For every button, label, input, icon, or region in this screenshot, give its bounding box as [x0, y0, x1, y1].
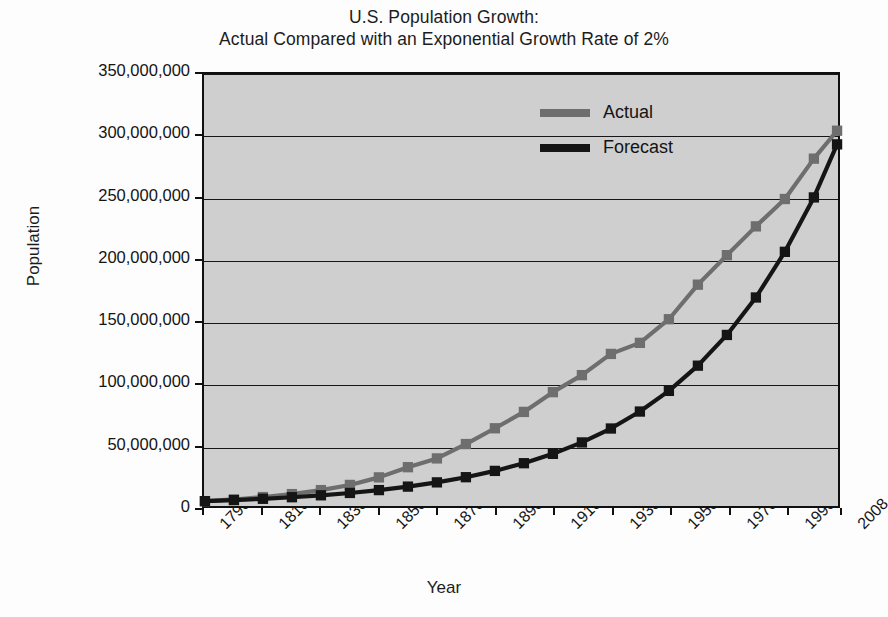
- data-point-marker: [345, 488, 355, 498]
- data-point-marker: [751, 292, 761, 302]
- data-point-marker: [345, 480, 355, 490]
- data-point-marker: [577, 370, 587, 380]
- legend-item-forecast[interactable]: Forecast: [540, 137, 673, 158]
- data-series-layer: [204, 74, 838, 506]
- data-point-marker: [287, 489, 297, 499]
- gridline: [204, 199, 838, 200]
- data-point-marker: [490, 466, 500, 476]
- y-axis-label: Population: [24, 166, 44, 326]
- data-point-marker: [548, 449, 558, 459]
- y-axis-tick-label: 50,000,000: [107, 435, 190, 454]
- x-axis-tick-mark: [612, 508, 614, 515]
- data-point-marker: [722, 330, 732, 340]
- data-point-marker: [229, 495, 239, 505]
- gridline: [204, 261, 838, 262]
- gridline: [204, 136, 838, 137]
- plot-area: ActualForecast: [202, 72, 840, 508]
- x-axis-tick-mark: [378, 508, 380, 515]
- data-point-marker: [664, 386, 674, 396]
- data-point-marker: [316, 485, 326, 495]
- data-point-marker: [403, 481, 413, 491]
- data-point-marker: [461, 472, 471, 482]
- data-point-marker: [519, 407, 529, 417]
- data-point-marker: [832, 126, 842, 136]
- data-point-marker: [490, 423, 500, 433]
- data-point-marker: [832, 139, 842, 149]
- y-axis-tick-mark: [195, 197, 202, 199]
- data-point-marker: [258, 492, 268, 502]
- data-point-marker: [403, 462, 413, 472]
- y-axis-tick-mark: [195, 134, 202, 136]
- x-axis-tick-mark: [495, 508, 497, 515]
- data-point-marker: [229, 494, 239, 504]
- x-axis-tick-mark: [840, 508, 842, 515]
- series-line-actual: [205, 131, 837, 501]
- legend-swatch-actual: [540, 109, 590, 117]
- y-axis-tick-mark: [195, 72, 202, 74]
- data-point-marker: [780, 247, 790, 257]
- chart-title-line-1: U.S. Population Growth:: [0, 6, 888, 28]
- data-point-marker: [635, 338, 645, 348]
- x-axis-tick-mark: [261, 508, 263, 515]
- data-point-marker: [287, 492, 297, 502]
- y-axis-tick-mark: [195, 383, 202, 385]
- y-axis-tick-label: 100,000,000: [98, 372, 190, 391]
- y-axis-tick-label: 200,000,000: [98, 248, 190, 267]
- data-point-marker: [693, 280, 703, 290]
- y-axis-tick-label: 300,000,000: [98, 123, 190, 142]
- legend-label: Actual: [603, 102, 653, 123]
- gridline: [204, 448, 838, 449]
- data-point-marker: [258, 494, 268, 504]
- chart-legend: ActualForecast: [540, 102, 673, 158]
- chart-title-line-2: Actual Compared with an Exponential Grow…: [0, 28, 888, 50]
- y-axis-tick-mark: [195, 259, 202, 261]
- x-axis-tick-mark: [553, 508, 555, 515]
- data-point-marker: [693, 361, 703, 371]
- x-axis-tick-mark: [436, 508, 438, 515]
- chart-figure: U.S. Population Growth: Actual Compared …: [0, 0, 888, 617]
- legend-item-actual[interactable]: Actual: [540, 102, 673, 123]
- x-axis-tick-mark: [202, 508, 204, 515]
- y-axis-tick-label: 350,000,000: [98, 61, 190, 80]
- data-point-marker: [374, 472, 384, 482]
- data-point-marker: [606, 349, 616, 359]
- gridline: [204, 323, 838, 324]
- data-point-marker: [432, 453, 442, 463]
- data-point-marker: [432, 477, 442, 487]
- legend-swatch-forecast: [540, 144, 590, 152]
- gridline: [204, 74, 838, 75]
- x-axis-tick-label: 2008: [854, 495, 888, 533]
- data-point-marker: [606, 423, 616, 433]
- data-point-marker: [635, 406, 645, 416]
- y-axis-tick-label: 250,000,000: [98, 186, 190, 205]
- gridline: [204, 385, 838, 386]
- data-point-marker: [751, 221, 761, 231]
- legend-label: Forecast: [603, 137, 673, 158]
- data-point-marker: [316, 490, 326, 500]
- data-point-marker: [548, 387, 558, 397]
- x-axis-tick-mark: [787, 508, 789, 515]
- series-markers-actual: [200, 126, 842, 507]
- y-axis-tick-mark: [195, 321, 202, 323]
- y-axis-tick-label: 150,000,000: [98, 310, 190, 329]
- data-point-marker: [722, 250, 732, 260]
- y-axis-tick-label: 0: [181, 497, 190, 516]
- data-point-marker: [374, 485, 384, 495]
- x-axis-tick-mark: [319, 508, 321, 515]
- data-point-marker: [519, 458, 529, 468]
- data-point-marker: [809, 192, 819, 202]
- x-axis-tick-mark: [670, 508, 672, 515]
- y-axis-tick-mark: [195, 508, 202, 510]
- chart-title: U.S. Population Growth: Actual Compared …: [0, 6, 888, 51]
- x-axis-tick-mark: [729, 508, 731, 515]
- x-axis-label: Year: [0, 578, 888, 598]
- data-point-marker: [577, 437, 587, 447]
- y-axis-tick-mark: [195, 446, 202, 448]
- data-point-marker: [809, 153, 819, 163]
- data-point-marker: [200, 496, 210, 506]
- data-point-marker: [200, 496, 210, 506]
